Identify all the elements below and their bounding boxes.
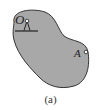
point-a-marker: [84, 50, 88, 54]
figure-caption: (a): [0, 93, 101, 105]
point-a-label: A: [74, 47, 81, 59]
pivot-label: O: [15, 12, 24, 28]
